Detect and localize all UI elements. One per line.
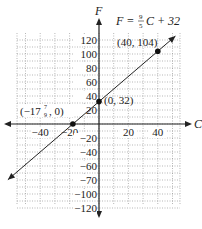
svg-text:9: 9 — [139, 13, 143, 21]
x-axis-label: C — [194, 117, 202, 131]
svg-text:−40: −40 — [80, 146, 98, 158]
svg-text:20: 20 — [86, 104, 98, 116]
equation-label: F = 9 5 C + 32 — [115, 13, 180, 30]
svg-text:−40: −40 — [32, 126, 50, 138]
axes — [4, 18, 192, 218]
svg-text:−70: −70 — [80, 174, 98, 186]
svg-text:5: 5 — [139, 22, 143, 30]
svg-text:, 0): , 0) — [49, 105, 64, 118]
x-axis-right-arrow-icon — [185, 121, 192, 127]
svg-text:20: 20 — [123, 126, 135, 138]
svg-text:−120: −120 — [74, 202, 97, 214]
svg-text:80: 80 — [86, 62, 98, 74]
svg-text:9: 9 — [44, 112, 47, 118]
svg-text:(−17: (−17 — [20, 105, 41, 118]
svg-text:−20: −20 — [80, 132, 98, 144]
y-axis-up-arrow-icon — [96, 18, 102, 25]
chart: −40−20204012010080604020−20−40−60−70−100… — [0, 0, 202, 229]
data-point — [155, 48, 161, 54]
data-point — [96, 99, 102, 105]
svg-text:F =: F = — [115, 14, 134, 28]
point-label-neg: (−17 7 9 , 0) — [19, 104, 73, 118]
svg-text:100: 100 — [81, 48, 98, 60]
svg-text:40: 40 — [86, 90, 98, 102]
svg-text:−100: −100 — [74, 188, 97, 200]
point-label-0-32: (0, 32) — [104, 94, 134, 107]
svg-text:−60: −60 — [80, 160, 98, 172]
y-axis-label: F — [94, 4, 103, 18]
x-axis-left-arrow-icon — [4, 121, 11, 127]
svg-text:60: 60 — [86, 76, 98, 88]
svg-text:7: 7 — [44, 104, 47, 110]
point-label-40-104: (40, 104) — [117, 36, 158, 49]
data-point — [70, 121, 76, 127]
svg-text:40: 40 — [152, 126, 164, 138]
svg-text:C + 32: C + 32 — [146, 14, 180, 28]
svg-text:120: 120 — [81, 34, 98, 46]
